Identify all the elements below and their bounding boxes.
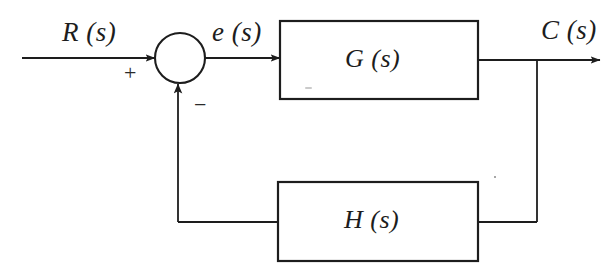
positive-sign-label: + [124,62,136,84]
error-signal-label: e (s) [212,19,262,46]
negative-sign-label: − [194,94,206,116]
scan-speck [305,87,312,89]
feedback-block-label: H (s) [344,207,399,233]
scan-speck [494,176,496,178]
summing-junction [155,33,205,83]
block-diagram-figure: R (s) e (s) C (s) G (s) H (s) + − [0,0,609,271]
forward-block-label: G (s) [345,46,400,72]
output-signal-label: C (s) [541,17,597,44]
input-signal-label: R (s) [62,19,116,46]
